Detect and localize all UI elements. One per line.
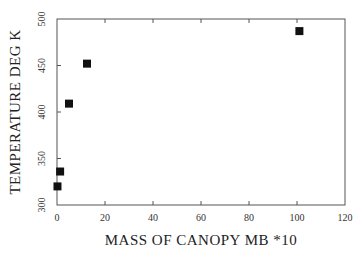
x-tick-label: 20: [100, 212, 110, 223]
data-point-marker: [83, 60, 91, 68]
data-point-marker: [295, 27, 303, 35]
data-points: [53, 27, 303, 190]
plot-frame: [57, 19, 345, 205]
x-tick-label: 100: [290, 212, 305, 223]
y-tick-label: 300: [36, 198, 47, 213]
y-tick-label: 500: [36, 12, 47, 27]
scatter-chart: 020406080100120 300350400450500 MASS OF …: [0, 0, 364, 260]
x-tick-label: 40: [148, 212, 158, 223]
data-point-marker: [53, 182, 61, 190]
x-tick-label: 80: [244, 212, 254, 223]
y-axis-title: TEMPERATURE DEG K: [7, 29, 23, 194]
x-axis-title: MASS OF CANOPY MB *10: [105, 232, 298, 248]
data-point-marker: [65, 100, 73, 108]
y-tick-label: 450: [36, 58, 47, 73]
y-tick-label: 400: [36, 105, 47, 120]
x-tick-label: 0: [55, 212, 60, 223]
x-tick-label: 120: [338, 212, 353, 223]
x-tick-label: 60: [196, 212, 206, 223]
x-axis-ticks: 020406080100120: [55, 19, 353, 223]
y-tick-label: 350: [36, 151, 47, 166]
data-point-marker: [56, 168, 64, 176]
